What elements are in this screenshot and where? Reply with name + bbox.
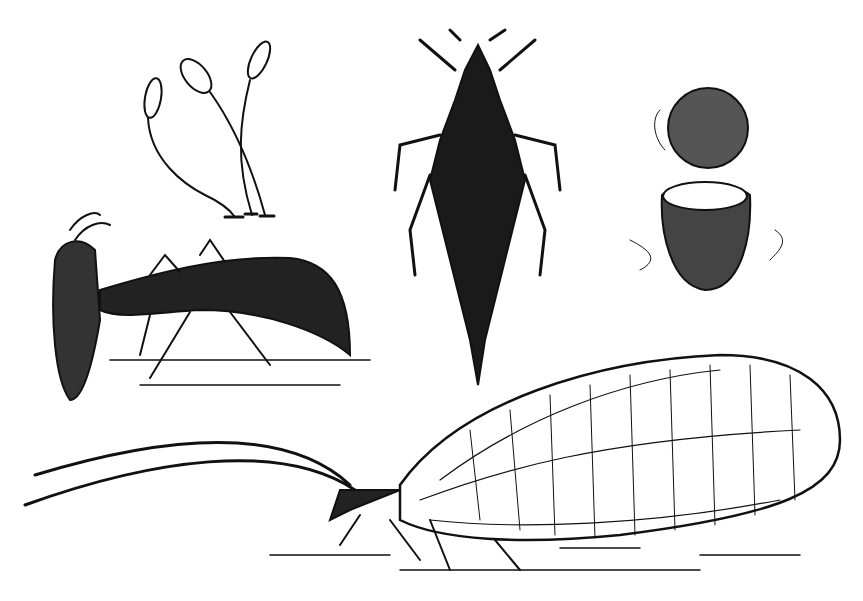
cocoon-opened <box>630 88 783 290</box>
larva-dorsal-view <box>395 30 560 385</box>
stalked-eggs <box>142 38 275 217</box>
illustration <box>0 0 863 601</box>
adult-lacewing <box>25 355 840 570</box>
larva-feeding-side-view <box>53 213 370 400</box>
